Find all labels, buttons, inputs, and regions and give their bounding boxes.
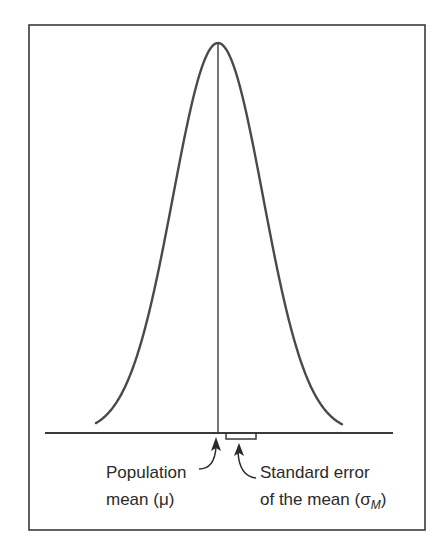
sampling-distribution-figure: Population mean (μ) Standard error of th… bbox=[0, 0, 447, 557]
standard-error-label-line2: of the mean (σM) bbox=[260, 490, 386, 512]
standard-error-arrowhead-icon bbox=[234, 443, 244, 456]
standard-error-arrow-icon bbox=[238, 452, 256, 478]
se-label-suffix: ) bbox=[381, 490, 387, 509]
population-mean-arrow-icon bbox=[199, 447, 216, 469]
normal-curve bbox=[96, 43, 342, 424]
se-label-prefix: of the mean (σ bbox=[260, 490, 371, 509]
se-label-subscript: M bbox=[371, 498, 381, 512]
standard-error-label-line1: Standard error bbox=[260, 463, 370, 482]
population-mean-label-line2: mean (μ) bbox=[106, 490, 174, 509]
population-mean-label-line1: Population bbox=[106, 463, 186, 482]
figure-frame bbox=[29, 25, 425, 530]
